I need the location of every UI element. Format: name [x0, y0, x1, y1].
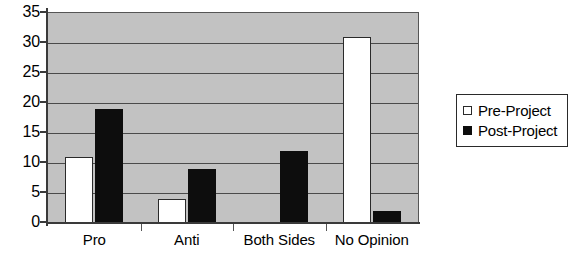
y-axis-tick-label: 10 — [10, 154, 40, 170]
plot-area — [48, 12, 419, 223]
y-axis-tick-label: 15 — [10, 124, 40, 140]
x-axis-category-label: Anti — [174, 231, 199, 248]
y-axis-tick-label: 0 — [10, 214, 40, 230]
bar-both-sides-post-project — [280, 151, 308, 223]
bar-anti-pre-project — [158, 199, 186, 223]
chart-legend: Pre-Project Post-Project — [456, 94, 568, 147]
open-square-icon — [463, 106, 472, 115]
bar-no-opinion-pre-project — [343, 37, 371, 223]
x-axis-category-label: No Opinion — [335, 231, 409, 248]
legend-label-post-project: Post-Project — [478, 122, 557, 139]
filled-square-icon — [463, 126, 472, 135]
y-axis-line — [46, 8, 48, 226]
y-axis-tick-label: 20 — [10, 94, 40, 110]
x-axis-category-label: Pro — [83, 231, 106, 248]
x-axis-category-label: Both Sides — [243, 231, 315, 248]
bar-pro-pre-project — [65, 157, 93, 223]
x-axis-tick-mark — [326, 224, 327, 231]
legend-label-pre-project: Pre-Project — [478, 102, 551, 119]
x-axis-category-labels: ProAntiBoth SidesNo Opinion — [48, 231, 418, 254]
bar-chart-figure: 05101520253035 ProAntiBoth SidesNo Opini… — [0, 0, 575, 254]
y-axis-tick-label: 30 — [10, 34, 40, 50]
x-axis-tick-mark — [141, 224, 142, 231]
legend-item-pre-project: Pre-Project — [463, 100, 561, 120]
y-axis-tick-labels: 05101520253035 — [4, 0, 40, 254]
legend-item-post-project: Post-Project — [463, 120, 561, 140]
y-axis-tick-label: 35 — [10, 4, 40, 20]
y-axis-tick-label: 5 — [10, 184, 40, 200]
y-axis-tick-label: 25 — [10, 64, 40, 80]
bar-pro-post-project — [95, 109, 123, 223]
x-axis-tick-mark — [233, 224, 234, 231]
bar-anti-post-project — [188, 169, 216, 223]
